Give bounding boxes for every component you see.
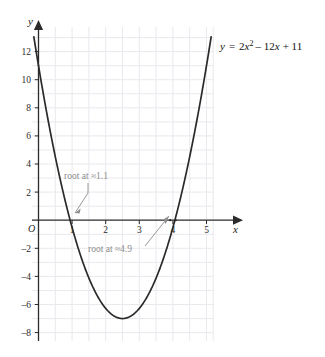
x-axis-label: x bbox=[232, 223, 238, 235]
annotation-root-high-label: root at ≈4.9 bbox=[88, 244, 132, 254]
x-tick-label: 2 bbox=[103, 225, 108, 235]
y-tick-label: 6 bbox=[26, 131, 31, 141]
graph-figure: y x O 1 2 3 4 5 6 12 10 8 6 4 2 –2 –4 –6… bbox=[0, 0, 325, 357]
y-tick-label: 4 bbox=[26, 159, 31, 169]
svg-text:y=2x2– 12x+ 11: y=2x2– 12x+ 11 bbox=[219, 39, 302, 52]
equation-label: y=2x2– 12x+ 11 bbox=[219, 39, 302, 52]
y-tick-label: 10 bbox=[22, 75, 32, 85]
equation-var-b: x bbox=[274, 40, 280, 52]
x-tick-label: 1 bbox=[70, 225, 75, 235]
x-tick-label: 5 bbox=[204, 225, 209, 235]
y-axis-label: y bbox=[27, 15, 33, 27]
equation-lhs: y bbox=[219, 40, 225, 52]
y-tick-label: 2 bbox=[26, 188, 31, 198]
equation-equals: = bbox=[229, 40, 235, 52]
origin-label: O bbox=[28, 223, 35, 234]
x-tick-label: 4 bbox=[171, 225, 176, 235]
equation-exponent: 2 bbox=[250, 39, 254, 48]
y-tick-label: 12 bbox=[22, 47, 32, 57]
y-tick-label: –2 bbox=[21, 244, 32, 254]
root-marker-high bbox=[169, 219, 171, 221]
x-tick-label: 3 bbox=[137, 225, 142, 235]
root-marker-low bbox=[175, 219, 177, 221]
equation-term-c: + 11 bbox=[283, 40, 303, 52]
y-tick-label: –8 bbox=[21, 328, 32, 338]
y-tick-label: 8 bbox=[26, 103, 31, 113]
annotation-root-low-label: root at ≈1.1 bbox=[64, 171, 108, 181]
y-tick-label: –6 bbox=[21, 300, 32, 310]
y-tick-label: –4 bbox=[21, 272, 32, 282]
equation-term-b: – 12 bbox=[255, 40, 275, 52]
